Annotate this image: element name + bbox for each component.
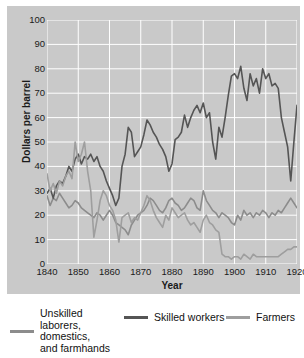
x-tick-label: 1880 xyxy=(161,266,182,277)
x-axis-ticks: 184018501860187018801890190019101920 xyxy=(47,266,297,278)
x-tick-label: 1840 xyxy=(36,266,57,277)
y-tick-label: 90 xyxy=(11,39,45,48)
chart-svg xyxy=(47,20,297,264)
x-tick-label: 1870 xyxy=(130,266,151,277)
legend-swatch-icon xyxy=(10,330,34,333)
y-tick-label: 20 xyxy=(11,210,45,219)
legend-label: Skilled workers xyxy=(154,312,225,324)
x-tick-label: 1920 xyxy=(286,266,304,277)
legend-swatch-icon xyxy=(124,316,148,319)
x-axis-label: Year xyxy=(47,280,297,291)
x-tick-label: 1900 xyxy=(224,266,245,277)
legend-item-2: Farmers xyxy=(226,308,295,326)
y-tick-label: 30 xyxy=(11,186,45,195)
x-tick-label: 1910 xyxy=(255,266,276,277)
x-tick-label: 1850 xyxy=(68,266,89,277)
x-tick-label: 1860 xyxy=(99,266,120,277)
y-axis-label: Dollars per barrel xyxy=(21,57,32,187)
x-tick-label: 1890 xyxy=(193,266,214,277)
chart-panel: 0102030405060708090100 Dollars per barre… xyxy=(7,6,300,294)
plot-area xyxy=(47,20,297,264)
legend-label: Unskilledlaborers,domestics,and farmhand… xyxy=(40,308,110,354)
legend-label: Farmers xyxy=(256,312,295,324)
legend-item-0: Unskilledlaborers,domestics,and farmhand… xyxy=(10,308,110,354)
chart-legend: Unskilledlaborers,domestics,and farmhand… xyxy=(0,302,304,358)
y-tick-label: 100 xyxy=(11,15,45,24)
legend-swatch-icon xyxy=(226,316,250,319)
legend-item-1: Skilled workers xyxy=(124,308,225,326)
y-tick-label: 10 xyxy=(11,235,45,244)
